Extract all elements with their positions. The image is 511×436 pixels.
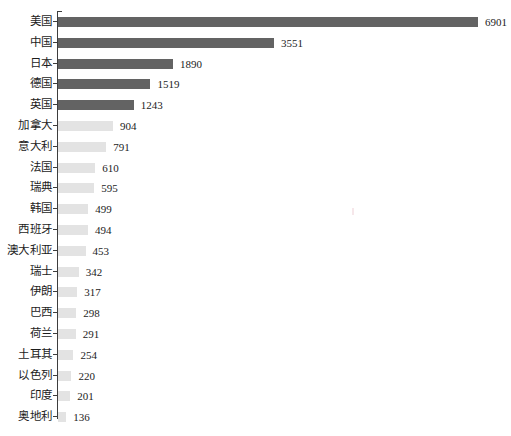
bar-value-label: 499 [95,198,112,219]
bar-row: 伊朗317 [0,281,511,302]
category-label: 西班牙 [0,219,52,240]
axis-tick [53,354,57,355]
category-label: 意大利 [0,136,52,157]
bar [58,79,150,89]
bar-row: 巴西298 [0,302,511,323]
bar [58,225,88,235]
bar-row: 法国610 [0,157,511,178]
bar-row: 中国3551 [0,32,511,53]
category-label: 瑞士 [0,261,52,282]
bar-value-label: 298 [83,302,100,323]
bar [58,121,113,131]
axis-tick [53,167,57,168]
bar [58,329,76,339]
bar-row: 澳大利亚453 [0,240,511,261]
bar-value-label: 453 [93,240,110,261]
category-label: 德国 [0,73,52,94]
horizontal-bar-chart: 美国6901中国3551日本1890德国1519英国1243加拿大904意大利7… [0,0,511,436]
bar [58,246,86,256]
bar [58,287,77,297]
bar-row: 瑞典595 [0,177,511,198]
axis-tick [53,291,57,292]
axis-tick [53,395,57,396]
axis-tick [53,208,57,209]
category-label: 英国 [0,94,52,115]
bar [58,17,478,27]
bar-row: 荷兰291 [0,323,511,344]
bar [58,412,66,422]
axis-tick [53,146,57,147]
bar-value-label: 136 [73,406,90,427]
bar-value-label: 610 [102,157,119,178]
bar-row: 日本1890 [0,53,511,74]
category-label: 韩国 [0,198,52,219]
bar-value-label: 342 [86,261,103,282]
bar [58,163,95,173]
bar [58,371,71,381]
category-label: 巴西 [0,302,52,323]
bar-value-label: 904 [120,115,137,136]
bar-value-label: 3551 [281,32,303,53]
bar-row: 英国1243 [0,94,511,115]
axis-tick [53,271,57,272]
category-label: 奥地利 [0,406,52,427]
bar-row: 瑞士342 [0,261,511,282]
category-label: 加拿大 [0,115,52,136]
bar [58,350,73,360]
bar-value-label: 791 [113,136,130,157]
bar-row: 以色列220 [0,365,511,386]
category-label: 澳大利亚 [0,240,52,261]
category-label: 伊朗 [0,281,52,302]
axis-tick [53,250,57,251]
bar-value-label: 1243 [141,94,163,115]
bar-row: 印度201 [0,385,511,406]
category-label: 中国 [0,32,52,53]
bar [58,100,134,110]
category-label: 土耳其 [0,344,52,365]
bar [58,183,94,193]
axis-tick [53,312,57,313]
axis-tick [53,375,57,376]
bar-value-label: 1890 [180,53,202,74]
scan-artifact [352,208,354,215]
bar-value-label: 317 [84,281,101,302]
axis-tick [53,83,57,84]
bar-value-label: 291 [83,323,100,344]
category-label: 美国 [0,11,52,32]
bar-row: 韩国499 [0,198,511,219]
axis-tick [53,187,57,188]
bar-value-label: 1519 [157,73,179,94]
bar-row: 西班牙494 [0,219,511,240]
category-label: 以色列 [0,365,52,386]
bar-value-label: 201 [77,385,94,406]
bar-row: 意大利791 [0,136,511,157]
bar-row: 德国1519 [0,73,511,94]
category-label: 瑞典 [0,177,52,198]
category-label: 日本 [0,53,52,74]
bar-value-label: 595 [101,177,118,198]
bar-value-label: 254 [80,344,97,365]
category-label: 法国 [0,157,52,178]
axis-tick [53,229,57,230]
axis-tick [53,21,57,22]
bar-row: 加拿大904 [0,115,511,136]
axis-tick [53,416,57,417]
bar-value-label: 6901 [485,11,507,32]
bar-row: 美国6901 [0,11,511,32]
bar [58,308,76,318]
bar-row: 土耳其254 [0,344,511,365]
axis-tick [53,63,57,64]
bar-row: 奥地利136 [0,406,511,427]
bar [58,142,106,152]
bar [58,204,88,214]
bar [58,391,70,401]
axis-tick [53,125,57,126]
bar-value-label: 220 [78,365,95,386]
bar [58,59,173,69]
bar-value-label: 494 [95,219,112,240]
bar [58,38,274,48]
category-label: 印度 [0,385,52,406]
axis-tick [53,104,57,105]
category-label: 荷兰 [0,323,52,344]
bar [58,267,79,277]
